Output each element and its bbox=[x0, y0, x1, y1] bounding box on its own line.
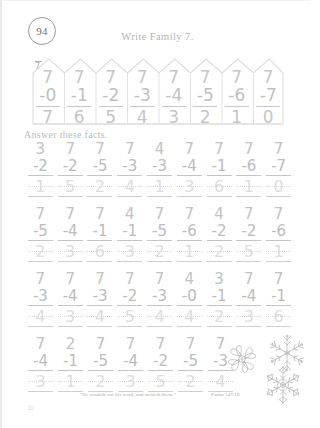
subtrahend: -5 bbox=[28, 223, 53, 241]
answer-blank[interactable]: 1 bbox=[154, 176, 164, 197]
fence-answer: 5 bbox=[105, 107, 116, 128]
problem[interactable]: 7 -5 2 bbox=[145, 206, 174, 262]
problem[interactable]: 7 -4 3 bbox=[56, 271, 85, 327]
answer-blank[interactable]: 5 bbox=[125, 306, 135, 327]
problem[interactable]: 7 -7 0 bbox=[264, 141, 293, 197]
fence-subtrahend: -7 bbox=[256, 87, 280, 107]
answer-blank[interactable]: 4 bbox=[154, 306, 164, 327]
problem[interactable]: 7 -3 4 bbox=[86, 271, 115, 327]
answer-blank[interactable]: 2 bbox=[154, 241, 164, 262]
problem-row: 7 -3 4 7 -4 3 7 -3 4 7 - bbox=[26, 271, 294, 336]
problem[interactable]: 7 -5 2 bbox=[86, 336, 115, 392]
answer-blank[interactable]: 6 bbox=[274, 306, 284, 327]
answer-blank[interactable]: 0 bbox=[274, 176, 284, 197]
answer-blank[interactable]: 1 bbox=[244, 176, 254, 197]
minuend: 7 bbox=[274, 271, 284, 288]
problem[interactable]: 7 -4 3 bbox=[26, 336, 55, 392]
answer-blank[interactable]: 6 bbox=[95, 241, 105, 262]
answer-blank[interactable]: 2 bbox=[95, 371, 105, 392]
answer-blank[interactable]: 2 bbox=[95, 176, 105, 197]
subtrahend: -6 bbox=[177, 223, 202, 241]
minuend: 4 bbox=[185, 271, 195, 288]
minuend: 7 bbox=[244, 271, 254, 288]
problem[interactable]: 4 -2 2 bbox=[205, 206, 234, 262]
subtrahend: -2 bbox=[28, 158, 53, 176]
problem[interactable]: 7 -5 2 bbox=[86, 141, 115, 197]
answer-blank[interactable]: 2 bbox=[214, 306, 224, 327]
minuend: 7 bbox=[186, 336, 196, 353]
minuend: 7 bbox=[95, 206, 105, 223]
subtrahend: -1 bbox=[207, 158, 232, 176]
problem[interactable]: 7 -6 1 bbox=[175, 206, 204, 262]
minuend: 7 bbox=[126, 336, 136, 353]
fence-column: 7 -1 6 bbox=[64, 67, 96, 125]
answer-blank[interactable]: 3 bbox=[244, 306, 254, 327]
answer-blank[interactable]: 2 bbox=[35, 241, 45, 262]
fence-subtrahend: -2 bbox=[99, 87, 123, 107]
subtrahend: -1 bbox=[87, 223, 112, 241]
answer-blank[interactable]: 2 bbox=[214, 241, 224, 262]
answer-blank[interactable]: 3 bbox=[125, 371, 135, 392]
answer-blank[interactable]: 5 bbox=[65, 176, 75, 197]
problem[interactable]: 7 -3 4 bbox=[145, 271, 174, 327]
scripture-reference: Psalm 147:18 bbox=[211, 392, 240, 397]
answer-blank[interactable]: 4 bbox=[35, 306, 45, 327]
problem[interactable]: 7 -4 3 bbox=[234, 271, 263, 327]
fence-answer: 0 bbox=[263, 107, 274, 128]
answer-blank[interactable]: 2 bbox=[185, 371, 195, 392]
problem[interactable]: 7 -1 6 bbox=[205, 141, 234, 197]
problem[interactable]: 7 -2 5 bbox=[234, 206, 263, 262]
problem[interactable]: 4 -3 1 bbox=[145, 141, 174, 197]
problem[interactable]: 3 -2 1 bbox=[26, 141, 55, 197]
minuend: 7 bbox=[95, 141, 105, 158]
answer-blank[interactable]: 6 bbox=[214, 176, 224, 197]
problem[interactable]: 7 -4 3 bbox=[116, 336, 145, 392]
instruction-text: Answer these facts. bbox=[24, 129, 108, 140]
answer-blank[interactable]: 3 bbox=[65, 306, 75, 327]
problem[interactable]: 7 -2 5 bbox=[115, 271, 144, 327]
problem[interactable]: 7 -3 4 bbox=[115, 141, 144, 197]
problem[interactable]: 2 -1 1 bbox=[56, 336, 85, 392]
problem[interactable]: 3 -1 2 bbox=[205, 271, 234, 327]
problem[interactable]: 7 -1 6 bbox=[264, 271, 293, 327]
minuend: 7 bbox=[185, 141, 195, 158]
subtrahend: -2 bbox=[148, 353, 173, 371]
answer-blank[interactable]: 4 bbox=[95, 306, 105, 327]
answer-blank[interactable]: 5 bbox=[155, 371, 165, 392]
problem[interactable]: 7 -2 5 bbox=[146, 336, 175, 392]
problem[interactable]: 7 -5 2 bbox=[26, 206, 55, 262]
fence-answer: 7 bbox=[42, 107, 53, 128]
answer-blank[interactable]: 5 bbox=[244, 241, 254, 262]
answer-blank[interactable]: 1 bbox=[65, 371, 75, 392]
problem[interactable]: 7 -1 6 bbox=[86, 206, 115, 262]
fence-column: 7 -5 2 bbox=[190, 67, 222, 125]
problem[interactable]: 7 -4 3 bbox=[56, 206, 85, 262]
subtrahend: -1 bbox=[117, 223, 142, 241]
answer-blank[interactable]: 3 bbox=[65, 241, 75, 262]
fence-answer: 4 bbox=[137, 107, 148, 128]
problem[interactable]: 7 -4 3 bbox=[175, 141, 204, 197]
problem[interactable]: 7 -5 2 bbox=[176, 336, 205, 392]
problem[interactable]: 4 -1 3 bbox=[115, 206, 144, 262]
answer-blank[interactable]: 1 bbox=[35, 176, 45, 197]
subtrahend: -3 bbox=[117, 158, 142, 176]
answer-blank[interactable]: 4 bbox=[125, 176, 135, 197]
problem[interactable]: 4 -0 4 bbox=[175, 271, 204, 327]
minuend: 7 bbox=[65, 271, 75, 288]
fence-columns: 7 -0 7 7 -1 6 7 -2 5 7 -3 4 7 -4 bbox=[32, 67, 284, 125]
problem[interactable]: 7 -3 4 bbox=[26, 271, 55, 327]
problem[interactable]: 7 -2 5 bbox=[56, 141, 85, 197]
answer-blank[interactable]: 3 bbox=[184, 176, 194, 197]
answer-blank[interactable]: 4 bbox=[184, 306, 194, 327]
answer-blank[interactable]: 3 bbox=[125, 241, 135, 262]
fence-column: 7 -6 1 bbox=[221, 67, 253, 125]
problem[interactable]: 7 -6 1 bbox=[264, 206, 293, 262]
minuend: 7 bbox=[155, 271, 165, 288]
problem[interactable]: 7 -6 1 bbox=[234, 141, 263, 197]
subtrahend: -6 bbox=[236, 158, 261, 176]
answer-blank[interactable]: 1 bbox=[274, 241, 284, 262]
answer-blank[interactable]: 3 bbox=[35, 371, 45, 392]
fence-subtrahend: -4 bbox=[162, 87, 186, 107]
answer-blank[interactable]: 1 bbox=[184, 241, 194, 262]
minuend: 7 bbox=[65, 206, 75, 223]
